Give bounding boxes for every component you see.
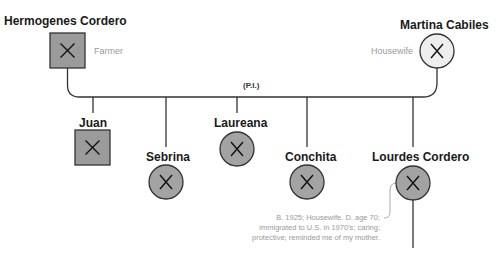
lourdes-name: Lourdes Cordero (372, 150, 469, 164)
annotation-line-1: B. 1925; Housewife. D. age 70; (220, 213, 380, 223)
lourdes-symbol (396, 166, 430, 200)
martina-occupation: Housewife (371, 46, 413, 56)
juan-symbol (75, 130, 110, 165)
laureana-name: Laureana (214, 116, 267, 130)
martina-symbol (420, 34, 454, 68)
sebrina-name: Sebrina (146, 150, 190, 164)
marriage-label: (P.I.) (243, 81, 259, 90)
hermogenes-name: Hermogenes Cordero (4, 14, 127, 28)
hermogenes-symbol (50, 33, 85, 68)
lourdes-annotation: B. 1925; Housewife. D. age 70; immigrate… (220, 213, 380, 243)
juan-name: Juan (79, 116, 107, 130)
annotation-line-2: immigrated to U.S. in 1970's; caring; (220, 223, 380, 233)
hermogenes-occupation: Farmer (94, 46, 123, 56)
conchita-name: Conchita (285, 150, 336, 164)
conchita-symbol (290, 165, 324, 199)
martina-name: Martina Cabiles (400, 18, 489, 32)
sebrina-symbol (149, 165, 183, 199)
annotation-line-3: protective; reminded me of my mother. (220, 233, 380, 243)
laureana-symbol (220, 132, 254, 166)
